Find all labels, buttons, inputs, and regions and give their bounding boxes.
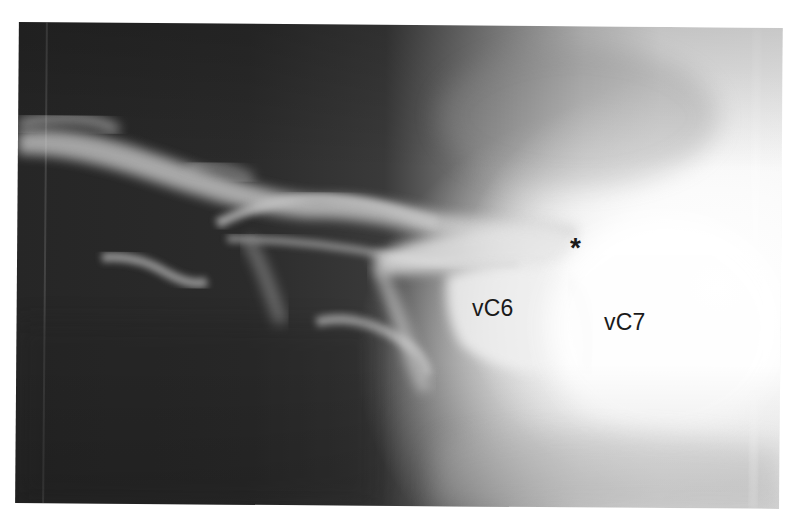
label-vc6: vC6 [472, 295, 514, 322]
radiograph-image [15, 22, 783, 509]
label-vc7: vC7 [604, 309, 646, 336]
marker-asterisk: * [570, 232, 581, 264]
spine-bone-shapes [15, 22, 783, 509]
